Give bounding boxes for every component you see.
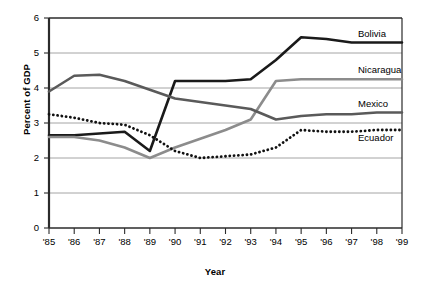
series-line-bolivia xyxy=(49,37,402,151)
axis-ticks xyxy=(44,18,402,234)
gridlines xyxy=(49,18,402,228)
series-line-ecuador xyxy=(49,114,402,158)
series-paths-group xyxy=(49,37,402,158)
chart-container: Percent of GDP Year 0123456 '85'86'87'88… xyxy=(0,0,430,290)
plot-area xyxy=(0,0,430,290)
series-line-nicaragua xyxy=(49,79,402,158)
